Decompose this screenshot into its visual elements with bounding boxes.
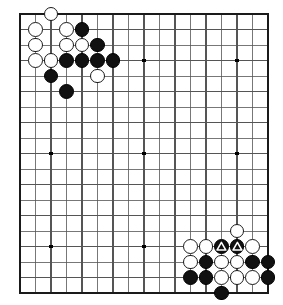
black-stone[interactable] [106, 53, 121, 68]
black-stone[interactable] [90, 53, 105, 68]
black-stone[interactable] [230, 239, 245, 254]
white-stone[interactable] [245, 270, 260, 285]
black-stone[interactable] [75, 53, 90, 68]
star-point [49, 245, 53, 249]
white-stone[interactable] [59, 38, 74, 53]
white-stone[interactable] [230, 270, 245, 285]
white-stone[interactable] [28, 22, 43, 37]
white-stone[interactable] [28, 38, 43, 53]
white-stone[interactable] [199, 239, 214, 254]
white-stone[interactable] [59, 22, 74, 37]
star-point [142, 245, 146, 249]
star-point [49, 152, 53, 156]
white-stone[interactable] [44, 53, 59, 68]
black-stone[interactable] [59, 53, 74, 68]
black-stone[interactable] [90, 38, 105, 53]
star-point [142, 59, 146, 63]
black-stone[interactable] [214, 286, 229, 301]
black-stone[interactable] [261, 270, 276, 285]
black-stone[interactable] [183, 270, 198, 285]
star-point [142, 152, 146, 156]
white-stone[interactable] [183, 255, 198, 270]
black-stone[interactable] [245, 255, 260, 270]
white-stone[interactable] [214, 255, 229, 270]
star-point [235, 152, 239, 156]
go-board-diagram [0, 0, 283, 305]
white-stone[interactable] [183, 239, 198, 254]
star-point [235, 59, 239, 63]
black-stone[interactable] [59, 84, 74, 99]
white-stone[interactable] [214, 270, 229, 285]
black-stone[interactable] [214, 239, 229, 254]
black-stone[interactable] [199, 270, 214, 285]
white-stone[interactable] [245, 239, 260, 254]
white-stone[interactable] [90, 69, 105, 84]
white-stone[interactable] [28, 53, 43, 68]
black-stone[interactable] [75, 22, 90, 37]
